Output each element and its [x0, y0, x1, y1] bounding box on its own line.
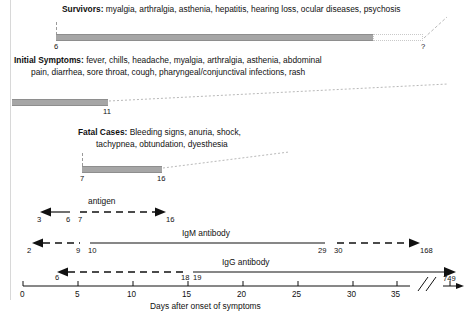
x-axis — [0, 0, 466, 315]
axis-tick-label-25: 25 — [292, 290, 301, 299]
axis-tick-label-30: 30 — [347, 290, 356, 299]
axis-tick-label-35: 35 — [391, 290, 400, 299]
axis-tick-label-20: 20 — [237, 290, 246, 299]
axis-tick-label-15: 15 — [182, 290, 191, 299]
timeline-figure: Survivors: myalgia, arthralgia, asthenia… — [0, 0, 466, 315]
axis-tick-label-0: 0 — [20, 290, 25, 299]
axis-tick-label-10: 10 — [127, 290, 136, 299]
axis-tick-label-5: 5 — [75, 290, 80, 299]
x-axis-title: Days after onset of symptoms — [150, 301, 261, 311]
